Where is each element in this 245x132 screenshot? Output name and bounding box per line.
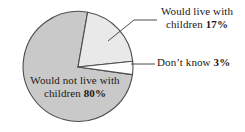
slice-label-percent: 3% bbox=[214, 56, 231, 68]
pie-slice-would-live-with-children bbox=[78, 12, 133, 67]
slice-label-would-live-with-children: Would live with children 17% bbox=[152, 5, 242, 30]
slice-label-percent: 80% bbox=[84, 87, 106, 99]
slice-label-line2: children bbox=[44, 87, 81, 99]
slice-label-would-not-live-with-children: Would not live with children 80% bbox=[16, 74, 134, 99]
slice-label-line2: children bbox=[166, 18, 203, 30]
slice-label-dont-know: Don’t know 3% bbox=[157, 56, 230, 69]
slice-label-line1: Would not live with bbox=[30, 74, 119, 86]
slice-label-text: Don’t know bbox=[157, 56, 211, 68]
pie-chart-figure: Would live with children 17% Don’t know … bbox=[0, 0, 245, 132]
slice-label-percent: 17% bbox=[206, 18, 228, 30]
slice-label-line1: Would live with bbox=[161, 5, 233, 17]
